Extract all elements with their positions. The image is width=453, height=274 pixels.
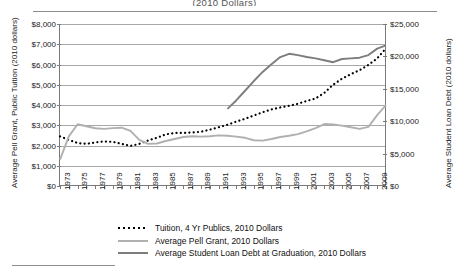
x-axis-tick <box>113 186 114 189</box>
x-axis-tick <box>201 186 202 189</box>
chart-legend: Tuition, 4 Yr Publics, 2010 DollarsAvera… <box>118 222 418 260</box>
x-axis-label: 1975 <box>80 172 89 190</box>
x-axis-tick <box>360 186 361 189</box>
x-axis-tick <box>166 186 167 189</box>
x-axis-tick <box>377 186 378 189</box>
x-axis-label: 2001 <box>309 172 318 190</box>
y-axis-left-label: $5,000 <box>32 80 56 89</box>
x-axis-label: 2003 <box>327 172 336 190</box>
y-axis-left-label: $7,000 <box>32 40 56 49</box>
chart-title-fragment: (2010 Dollars) <box>0 0 449 6</box>
y-axis-left-label: $8,000 <box>32 20 56 29</box>
series-line <box>60 48 386 146</box>
y-axis-right-title: Average Student Loan Debt (2010 dollars) <box>444 38 453 188</box>
y-axis-right-label: $0 <box>390 182 399 191</box>
x-axis-tick <box>78 186 79 189</box>
x-axis-label: 1979 <box>115 172 124 190</box>
legend-swatch-icon <box>118 248 148 258</box>
y-axis-left-label: $2,000 <box>32 141 56 150</box>
y-axis-left-label: $1,000 <box>32 161 56 170</box>
x-axis-label: 1981 <box>133 172 142 190</box>
y-axis-left-label: $3,000 <box>32 121 56 130</box>
y-axis-left-label: $6,000 <box>32 60 56 69</box>
plot-area <box>59 24 385 186</box>
series-line <box>227 45 386 109</box>
x-axis-label: 1991 <box>221 172 230 190</box>
y-axis-left-label: $0 <box>47 182 56 191</box>
x-axis-tick <box>307 186 308 189</box>
legend-item[interactable]: Average Student Loan Debt at Graduation,… <box>118 247 418 260</box>
y-axis-right-label: $25,000 <box>390 20 419 29</box>
x-axis-tick <box>271 186 272 189</box>
legend-swatch-icon <box>118 223 148 233</box>
x-axis-tick <box>130 186 131 189</box>
x-axis-label: 1985 <box>168 172 177 190</box>
x-axis-label: 1973 <box>63 172 72 190</box>
legend-item-label: Average Pell Grant, 2010 Dollars <box>155 236 279 246</box>
x-axis-label: 1999 <box>292 172 301 190</box>
y-axis-right-label: $20,000 <box>390 52 419 61</box>
x-axis-tick <box>254 186 255 189</box>
x-axis-tick <box>236 186 237 189</box>
x-axis-label: 1989 <box>203 172 212 190</box>
x-axis-label: 2009 <box>380 172 389 190</box>
legend-item[interactable]: Average Pell Grant, 2010 Dollars <box>118 235 418 248</box>
legend-item-label: Tuition, 4 Yr Publics, 2010 Dollars <box>155 223 283 233</box>
x-axis-label: 1993 <box>239 172 248 190</box>
x-axis-label: 1977 <box>98 172 107 190</box>
x-axis-label: 1997 <box>274 172 283 190</box>
legend-key-line <box>118 252 148 254</box>
x-axis-label: 2005 <box>344 172 353 190</box>
y-axis-left-title: Average Pell Grant, Public Tuition (2010… <box>10 17 19 188</box>
x-axis-tick <box>148 186 149 189</box>
series-line <box>60 105 386 160</box>
x-axis-tick <box>289 186 290 189</box>
x-axis-tick <box>342 186 343 189</box>
x-axis-tick <box>60 186 61 189</box>
x-axis-label: 1995 <box>256 172 265 190</box>
top-divider-rule <box>33 11 437 12</box>
legend-key-line <box>118 240 148 242</box>
x-axis-tick <box>95 186 96 189</box>
legend-item-label: Average Student Loan Debt at Graduation,… <box>155 248 366 258</box>
x-axis-label: 2007 <box>362 172 371 190</box>
y-axis-left-label: $4,000 <box>32 101 56 110</box>
x-axis-tick <box>219 186 220 189</box>
y-axis-right-label: $5,000 <box>390 149 414 158</box>
data-series-layer <box>60 24 386 186</box>
legend-item[interactable]: Tuition, 4 Yr Publics, 2010 Dollars <box>118 222 418 235</box>
x-axis-label: 1983 <box>151 172 160 190</box>
legend-swatch-icon <box>118 236 148 246</box>
x-axis-label: 1987 <box>186 172 195 190</box>
y-axis-right-label: $15,000 <box>390 84 419 93</box>
y-axis-right-label: $10,000 <box>390 117 419 126</box>
footnote-divider-rule <box>12 265 115 266</box>
legend-key-line <box>118 227 148 229</box>
x-axis-tick <box>324 186 325 189</box>
x-axis-tick <box>183 186 184 189</box>
